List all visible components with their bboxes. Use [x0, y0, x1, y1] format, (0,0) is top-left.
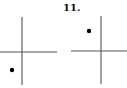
axes-figure: [0, 0, 127, 88]
left-diagram: [0, 17, 57, 85]
right-diagram: [71, 16, 127, 84]
right-point-dot: [87, 29, 91, 33]
left-point-dot: [10, 68, 14, 72]
